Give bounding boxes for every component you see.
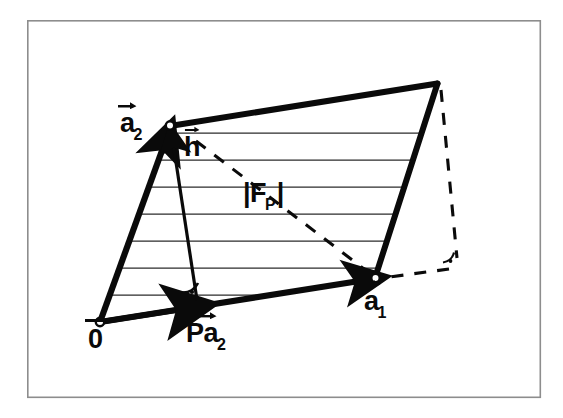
figure-root: 0 a 2 h |FP| [0,0,563,418]
dashed-corner-to-a1 [382,269,449,278]
label-origin: 0 [88,326,103,353]
vector-p-a2-shaft [100,307,196,322]
label-area-tail: | [277,178,284,208]
vertex-marker-a2 [166,121,174,129]
origin-glyph-wrap: 0 [88,326,103,353]
main-vectors [100,134,372,322]
vertex-marker-a1 [371,274,379,282]
hatching-lines [60,133,500,295]
label-h-text: h [184,134,200,161]
label-a1-text: a [364,288,379,315]
a1-glyph-wrap: a [364,288,379,315]
a2-glyph-wrap: a [120,110,135,137]
label-p-a2-text: Pa [186,320,218,347]
label-a2-text: a [120,110,135,137]
outer-frame [28,21,541,398]
p-a2-glyph-wrap: Pa [186,320,218,347]
dashed-top-to-corner [441,90,457,258]
label-area: |FP| [243,180,284,209]
edge-a2-to-top [170,84,438,127]
label-a2: a 2 [120,110,143,139]
label-p-a2-subscript: 2 [217,336,226,353]
vector-p-a2 [100,307,196,322]
label-a1-subscript: 1 [378,304,387,321]
dashed-diagonal-a2-to-a1 [196,141,372,275]
label-p-a2: Pa 2 [186,320,227,349]
right-angle-at-dashed-corner [443,253,454,263]
label-h: h [184,134,200,161]
vector-a2 [100,134,168,322]
label-a2-subscript: 2 [134,126,143,143]
edge-a1-to-top [375,84,438,279]
parallelogram-edges [170,84,438,279]
label-a1: a 1 [364,288,387,317]
label-area-head: |F [243,178,266,208]
label-origin-text: 0 [88,326,103,353]
h-glyph-wrap: h [184,134,200,161]
label-area-subscript: P [265,196,276,213]
